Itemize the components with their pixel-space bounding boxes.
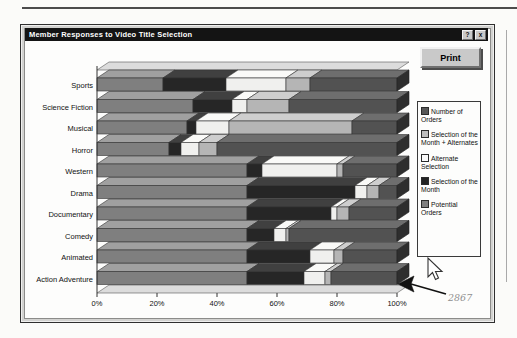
- legend-swatch-icon: [421, 154, 429, 162]
- legend-swatch-icon: [421, 130, 429, 138]
- legend-swatch-icon: [421, 107, 429, 115]
- window-title: Member Responses to Video Title Selectio…: [29, 30, 460, 39]
- legend-item: Selection of the Month: [421, 177, 479, 194]
- page-margin-line: [506, 30, 507, 282]
- legend-item: Selection of the Month + Alternates: [421, 130, 479, 147]
- legend: Number of OrdersSelection of the Month +…: [417, 101, 481, 257]
- print-button[interactable]: Print: [420, 47, 481, 68]
- help-button[interactable]: ?: [462, 30, 473, 40]
- legend-item: Number of Orders: [421, 107, 479, 124]
- legend-item: Potential Orders: [421, 200, 479, 217]
- page-top-rule: [22, 7, 517, 9]
- title-bar[interactable]: Member Responses to Video Title Selectio…: [25, 28, 488, 41]
- legend-label: Selection of the Month + Alternates: [421, 131, 478, 146]
- close-icon[interactable]: x: [475, 30, 486, 40]
- legend-swatch-icon: [421, 177, 429, 185]
- legend-label: Selection of the Month: [421, 178, 478, 193]
- legend-item: Alternate Selection: [421, 154, 479, 171]
- legend-swatch-icon: [421, 200, 429, 208]
